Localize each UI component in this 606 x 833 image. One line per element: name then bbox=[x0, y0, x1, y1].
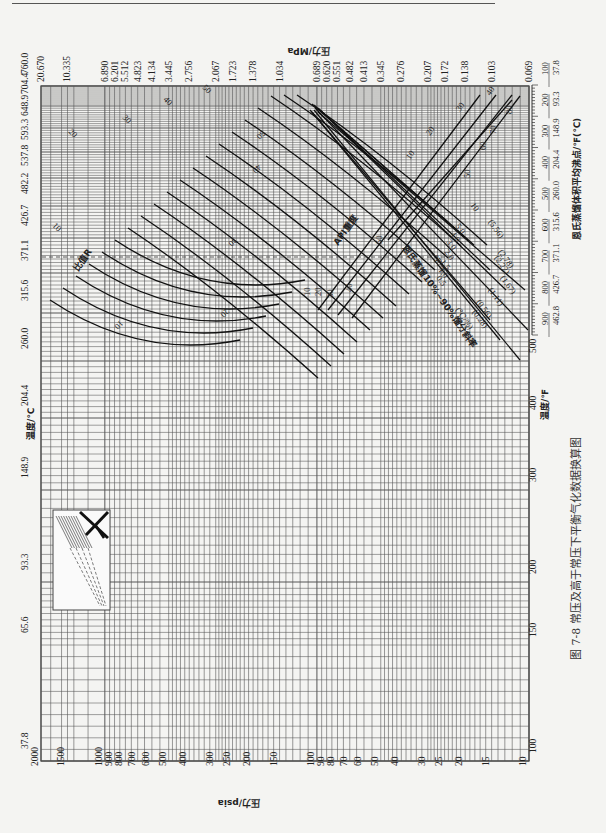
top-tick-label: 4.134 bbox=[147, 60, 157, 82]
boiling-f-tick: 200 bbox=[540, 94, 550, 107]
api-value-label: 30 bbox=[325, 290, 335, 299]
r-curve-label: 50 bbox=[201, 82, 214, 95]
bottom-tick-label: 250 bbox=[222, 752, 232, 767]
left-tick-label: 65.6 bbox=[20, 616, 30, 633]
boiling-c-tick: 37.8 bbox=[551, 60, 561, 75]
bottom-tick-label: 150 bbox=[269, 752, 279, 767]
bottom-tick-label: 10 bbox=[518, 756, 528, 766]
top-tick-label: 10.335 bbox=[62, 56, 72, 82]
left-tick-label: 593.3 bbox=[20, 118, 30, 140]
left-tick-label: 760.0 bbox=[20, 52, 30, 74]
bottom-axis-title: 压力/psia bbox=[218, 798, 260, 809]
api-value-label-top: 30 bbox=[453, 100, 466, 113]
left-tick-label: 260.0 bbox=[20, 327, 30, 349]
top-tick-label: 2.067 bbox=[211, 60, 221, 82]
bottom-tick-label: 300 bbox=[205, 752, 215, 767]
right-temp-tick: 200 bbox=[528, 560, 538, 575]
bottom-tick-label: 900 bbox=[104, 752, 114, 767]
boiling-c-tick: 315.6 bbox=[551, 212, 561, 231]
bottom-tick-label: 60 bbox=[353, 756, 363, 766]
right-axis-title: 温度/℉ bbox=[539, 389, 550, 420]
boiling-f-tick: 700 bbox=[540, 250, 550, 263]
bottom-tick-label: 15 bbox=[481, 756, 491, 766]
top-tick-label: 0.620 bbox=[322, 60, 332, 82]
figure-caption-text: 图 7-8 常压及高于常压下平衡气化数据换算图 bbox=[569, 437, 583, 660]
bottom-tick-label: 700 bbox=[127, 752, 137, 767]
boiling-f-tick: 500 bbox=[540, 187, 550, 200]
api-value-label: 20 bbox=[313, 288, 323, 297]
top-tick-label: 1.378 bbox=[248, 60, 258, 82]
right-temp-tick: 400 bbox=[528, 396, 538, 411]
bottom-tick-label: 500 bbox=[158, 752, 168, 767]
nomograph-chart: 760.0704.4648.9593.3537.8482.2426.7371.1… bbox=[0, 0, 606, 833]
top-tick-label: 6.201 bbox=[110, 60, 120, 82]
left-tick-label: 204.4 bbox=[20, 384, 30, 406]
top-tick-label: 2.756 bbox=[184, 60, 194, 82]
top-tick-label: 0.276 bbox=[396, 60, 406, 82]
left-axis-title: 温度/℃ bbox=[25, 408, 36, 440]
bottom-tick-label: 50 bbox=[370, 756, 380, 766]
boiling-f-tick: 600 bbox=[540, 219, 550, 232]
boiling-curve-label: 70 bbox=[488, 126, 498, 135]
bottom-tick-label: 40 bbox=[390, 756, 400, 766]
top-axis-title: 压力/MPa bbox=[287, 46, 330, 57]
boiling-c-tick: 148.9 bbox=[551, 118, 561, 137]
top-tick-label: 0.103 bbox=[487, 60, 497, 82]
left-tick-label: 648.9 bbox=[20, 94, 30, 116]
boiling-c-tick: 426.7 bbox=[551, 275, 561, 294]
boiling-f-tick: 300 bbox=[540, 125, 550, 138]
top-tick-label: 0.482 bbox=[345, 60, 355, 82]
left-tick-label: 537.8 bbox=[20, 144, 30, 166]
boiling-c-tick: 93.3 bbox=[551, 91, 561, 106]
boiling-f-tick: 800 bbox=[540, 281, 550, 294]
boiling-curve-label: 80 bbox=[504, 106, 514, 115]
top-tick-label: 0.138 bbox=[460, 60, 470, 82]
slope-value-c: (5.56) bbox=[486, 217, 506, 240]
top-tick-label: 6.890 bbox=[100, 60, 110, 82]
bottom-tick-label: 800 bbox=[114, 752, 124, 767]
bottom-tick-label: 100 bbox=[306, 752, 316, 767]
bottom-tick-label: 1500 bbox=[56, 747, 66, 766]
boiling-c-tick: 371.1 bbox=[551, 243, 561, 262]
top-tick-label: 4.823 bbox=[133, 60, 143, 82]
left-tick-label: 148.9 bbox=[20, 456, 30, 478]
right-temp-tick: 150 bbox=[528, 623, 538, 638]
usage-key-inset bbox=[53, 510, 110, 610]
top-tick-label: 0.689 bbox=[312, 60, 322, 82]
left-tick-label: 371.1 bbox=[20, 239, 30, 261]
slope-value: 10 bbox=[468, 200, 481, 213]
boiling-f-tick: 900 bbox=[540, 312, 550, 325]
right-temp-tick: 500 bbox=[528, 339, 538, 354]
api-value-label: 40 bbox=[344, 284, 354, 293]
left-tick-label: 315.6 bbox=[20, 279, 30, 301]
top-tick-label: 1.723 bbox=[228, 60, 238, 82]
bottom-tick-label: 70 bbox=[339, 756, 349, 766]
top-tick-label: 3.445 bbox=[164, 60, 174, 82]
boiling-curve-label: 50 bbox=[462, 170, 472, 179]
bottom-tick-label: 600 bbox=[141, 752, 151, 767]
top-tick-label: 20.670 bbox=[36, 56, 46, 82]
bottom-tick-label: 90 bbox=[316, 756, 326, 766]
right-temp-tick: 300 bbox=[528, 468, 538, 483]
api-value-label: 10 bbox=[302, 288, 312, 297]
bottom-tick-label: 25 bbox=[434, 756, 444, 766]
bottom-tick-label: 1000 bbox=[94, 747, 104, 766]
top-tick-label: 5.512 bbox=[120, 60, 130, 82]
boiling-f-tick: 100 bbox=[540, 62, 550, 75]
api-value-label-top: 10 bbox=[403, 148, 416, 161]
boiling-f-tick: 400 bbox=[540, 156, 550, 169]
boiling-curve-label: 60 bbox=[478, 142, 488, 151]
top-tick-label: 0.172 bbox=[440, 60, 450, 82]
left-tick-label: 93.3 bbox=[20, 553, 30, 570]
bottom-tick-label: 80 bbox=[326, 756, 336, 766]
boiling-c-tick: 462.8 bbox=[551, 306, 561, 325]
bottom-tick-label: 200 bbox=[242, 752, 252, 767]
top-tick-label: 0.207 bbox=[423, 60, 433, 82]
bottom-tick-label: 30 bbox=[417, 756, 427, 766]
boiling-axis-title: 恩氏蒸馏体积平均沸点/℉(℃) bbox=[571, 118, 582, 240]
left-tick-label: 704.4 bbox=[20, 72, 30, 94]
boiling-c-tick: 260.0 bbox=[551, 181, 561, 200]
top-tick-label: 0.345 bbox=[376, 60, 386, 82]
api-value-label: 50 bbox=[374, 236, 384, 245]
top-tick-label: 0.413 bbox=[359, 60, 369, 82]
